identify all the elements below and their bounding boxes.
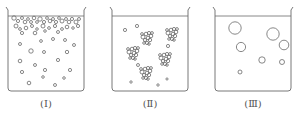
bubble	[73, 44, 76, 47]
bubble	[137, 64, 140, 67]
bubble	[61, 28, 64, 31]
bubble	[70, 17, 73, 20]
label-beaker-2: (Ⅱ)	[130, 98, 170, 109]
bubble	[236, 42, 245, 51]
bubble	[142, 77, 145, 80]
bubble	[33, 31, 37, 35]
bubble	[67, 20, 71, 24]
bubble	[161, 63, 164, 66]
bubble	[168, 34, 171, 37]
bubble	[16, 19, 19, 22]
beakers-group	[6, 7, 293, 91]
bubble	[129, 57, 132, 60]
bubble	[157, 84, 159, 86]
bubble	[57, 31, 60, 34]
bubble	[12, 16, 16, 20]
bubble	[169, 53, 172, 56]
bubble	[267, 28, 279, 40]
bubble	[41, 24, 45, 28]
bubble	[31, 25, 34, 28]
bubble-cluster	[140, 66, 153, 80]
bubble	[23, 20, 27, 24]
bubble	[58, 17, 61, 20]
bubble	[150, 67, 153, 70]
bubble	[129, 53, 132, 56]
bubble	[52, 18, 55, 21]
bubble	[279, 40, 289, 50]
bubble	[27, 18, 30, 21]
beaker-outline	[110, 7, 190, 91]
bubble	[19, 43, 22, 46]
bubble	[166, 44, 169, 47]
bubble	[147, 78, 150, 81]
bubble	[143, 42, 146, 45]
bubble	[65, 25, 69, 29]
bubble	[43, 51, 46, 54]
bubble	[74, 20, 78, 24]
bubble	[161, 59, 164, 62]
bubble	[21, 17, 24, 20]
bubble	[60, 19, 64, 23]
label-beaker-3: (Ⅲ)	[233, 98, 273, 109]
bubble	[168, 38, 171, 41]
bubble	[30, 21, 33, 24]
bubble-cluster	[141, 31, 154, 45]
bubble	[20, 70, 23, 73]
bubble	[68, 68, 71, 71]
beaker-3	[213, 7, 293, 91]
bubble	[18, 59, 22, 63]
bubble	[76, 24, 79, 27]
bubble	[166, 64, 169, 67]
bubble	[238, 70, 242, 74]
bubble	[143, 38, 146, 41]
bubble	[53, 24, 56, 27]
bubble	[72, 27, 75, 30]
bubble	[40, 40, 43, 43]
bubble	[44, 30, 47, 33]
bubble	[52, 38, 55, 41]
bubble	[173, 39, 176, 42]
beaker-1	[6, 7, 86, 91]
bubble	[43, 68, 46, 71]
bubble	[135, 24, 138, 27]
bubble	[130, 81, 132, 83]
beaker-2	[110, 7, 190, 91]
bubble	[259, 57, 265, 63]
bubble	[176, 28, 179, 31]
bubble	[229, 22, 241, 34]
bubble	[56, 58, 59, 61]
bubble	[42, 76, 45, 79]
bubble	[65, 50, 68, 53]
bubble	[19, 28, 22, 31]
bubble	[137, 47, 140, 50]
bubble	[34, 64, 37, 67]
bubble	[42, 20, 45, 23]
bubble-cluster	[159, 52, 172, 66]
bubble	[54, 20, 57, 23]
bubble	[151, 32, 154, 35]
bubble	[280, 60, 285, 65]
bubble-cluster	[166, 27, 179, 41]
bubble	[64, 39, 67, 42]
label-beaker-1: (Ⅰ)	[26, 98, 66, 109]
bubble	[24, 26, 28, 30]
bubble-cluster	[127, 46, 140, 60]
bubble	[36, 28, 39, 31]
bubble	[148, 43, 151, 46]
bubble	[63, 77, 66, 80]
bubble	[142, 73, 145, 76]
bubble	[38, 17, 42, 21]
bubble	[134, 58, 137, 61]
bubble	[123, 28, 126, 31]
bubble	[65, 18, 68, 21]
bubble	[20, 31, 23, 34]
bubble	[46, 17, 49, 20]
bubble	[166, 78, 168, 80]
bubble	[54, 84, 57, 87]
bubble	[29, 49, 33, 53]
bubble	[14, 24, 18, 28]
bubble	[36, 21, 39, 24]
bubble	[78, 18, 81, 21]
bubble	[48, 27, 51, 30]
bubble	[27, 81, 31, 85]
